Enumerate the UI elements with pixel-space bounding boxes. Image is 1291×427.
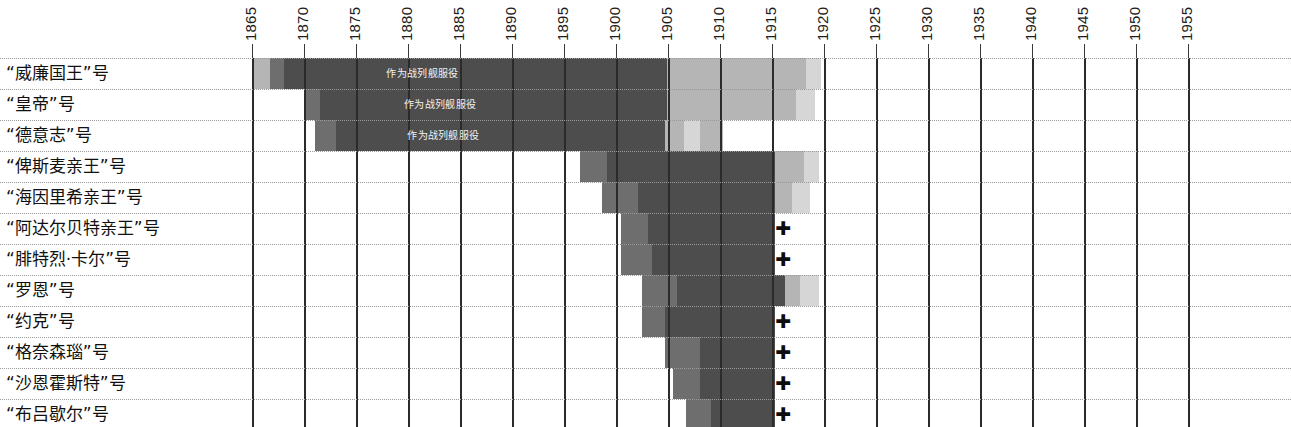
timeline-plot-area: 作为战列舰服役“威廉国王”号作为战列舰服役“皇帝”号作为战列舰服役“德意志”号“… <box>0 58 1291 427</box>
service-bar-segment <box>621 213 648 244</box>
service-bar-segment <box>700 368 775 399</box>
service-bar-segment <box>800 275 819 306</box>
year-label-1955: 1955 <box>1179 7 1194 41</box>
service-bar-segment <box>673 368 700 399</box>
year-tick-1920 <box>824 44 825 58</box>
gridline-1955 <box>1188 58 1190 427</box>
year-label-1915: 1915 <box>763 7 778 41</box>
timeline-row <box>0 399 1291 427</box>
row-separator <box>0 337 1291 338</box>
service-bar-segment <box>806 58 821 89</box>
service-bar-segment <box>652 244 775 275</box>
timeline-row <box>0 151 1291 182</box>
year-label-1905: 1905 <box>659 7 674 41</box>
row-separator <box>0 368 1291 369</box>
year-axis: 1865187018751880188518901895190019051910… <box>0 0 1291 58</box>
ship-name-label: “阿达尔贝特亲王”号 <box>6 213 160 244</box>
year-label-1890: 1890 <box>503 7 518 41</box>
ship-name-label: “约克”号 <box>6 306 75 337</box>
year-tick-1875 <box>356 44 357 58</box>
timeline-row <box>0 182 1291 213</box>
year-tick-1925 <box>876 44 877 58</box>
year-tick-1945 <box>1084 44 1085 58</box>
ship-name-label: “格奈森瑙”号 <box>6 337 109 368</box>
service-bar-segment <box>607 151 775 182</box>
timeline-row <box>0 244 1291 275</box>
service-bar-segment <box>667 58 806 89</box>
ship-name-label: “德意志”号 <box>6 120 92 151</box>
year-tick-1915 <box>772 44 773 58</box>
year-tick-1910 <box>720 44 721 58</box>
service-bar-segment <box>638 182 775 213</box>
ship-name-label: “腓特烈·卡尔”号 <box>6 244 131 275</box>
service-bar-segment <box>621 244 652 275</box>
service-bar-segment <box>667 89 796 120</box>
ship-name-label: “沙恩霍斯特”号 <box>6 368 126 399</box>
service-bar-segment <box>642 306 665 337</box>
gridline-1915 <box>772 58 774 427</box>
year-label-1950: 1950 <box>1127 7 1142 41</box>
service-bar-segment <box>700 337 775 368</box>
year-label-1900: 1900 <box>607 7 622 41</box>
row-separator <box>0 275 1291 276</box>
bar-label-battleship-service: 作为战列舰服役 <box>336 120 550 151</box>
year-tick-1950 <box>1136 44 1137 58</box>
service-bar-segment <box>684 120 701 151</box>
service-bar-segment <box>561 89 667 120</box>
year-label-1930: 1930 <box>919 7 934 41</box>
service-bar-segment <box>642 275 677 306</box>
service-bar-segment <box>785 275 800 306</box>
bar-label-battleship-service: 作为战列舰服役 <box>320 89 561 120</box>
gridline-1910 <box>720 58 722 427</box>
service-bar-segment <box>677 275 785 306</box>
row-separator <box>0 182 1291 183</box>
row-separator <box>0 213 1291 214</box>
gridline-1930 <box>928 58 930 427</box>
year-tick-1865 <box>252 44 253 58</box>
year-label-1870: 1870 <box>295 7 310 41</box>
year-tick-1935 <box>980 44 981 58</box>
sunk-marker-icon <box>775 244 791 275</box>
service-bar-segment <box>796 89 815 120</box>
gridline-1895 <box>564 58 566 427</box>
service-bar-segment <box>792 182 811 213</box>
gridline-1865 <box>252 58 254 427</box>
gridline-1900 <box>616 58 618 427</box>
year-tick-1905 <box>668 44 669 58</box>
row-separator <box>0 151 1291 152</box>
ship-name-label: “俾斯麦亲王”号 <box>6 151 126 182</box>
ship-name-label: “威廉国王”号 <box>6 58 109 89</box>
year-tick-1890 <box>512 44 513 58</box>
service-bar-segment <box>253 58 270 89</box>
service-bar-segment <box>775 151 804 182</box>
service-bar-segment <box>305 89 320 120</box>
gridline-1925 <box>876 58 878 427</box>
year-label-1940: 1940 <box>1023 7 1038 41</box>
timeline-row <box>0 337 1291 368</box>
gridline-1935 <box>980 58 982 427</box>
year-label-1880: 1880 <box>399 7 414 41</box>
year-label-1885: 1885 <box>451 7 466 41</box>
timeline-row: 作为战列舰服役 <box>0 120 1291 151</box>
year-tick-1885 <box>460 44 461 58</box>
sunk-marker-icon <box>775 368 791 399</box>
gridline-1945 <box>1084 58 1086 427</box>
year-label-1875: 1875 <box>347 7 362 41</box>
sunk-marker-icon <box>775 306 791 337</box>
row-separator <box>0 399 1291 400</box>
sunk-marker-icon <box>775 213 791 244</box>
gridline-1905 <box>668 58 670 427</box>
year-label-1910: 1910 <box>711 7 726 41</box>
gridline-1940 <box>1032 58 1034 427</box>
ship-service-timeline-chart: 1865187018751880188518901895190019051910… <box>0 0 1291 427</box>
service-bar-segment <box>270 58 285 89</box>
year-tick-1940 <box>1032 44 1033 58</box>
service-bar-segment <box>550 120 664 151</box>
ship-name-label: “布吕歇尔”号 <box>6 399 109 427</box>
timeline-row: 作为战列舰服役 <box>0 89 1291 120</box>
service-bar-segment <box>602 182 637 213</box>
service-bar-segment <box>665 337 700 368</box>
service-bar-segment <box>561 58 667 89</box>
year-tick-1955 <box>1188 44 1189 58</box>
row-separator <box>0 120 1291 121</box>
